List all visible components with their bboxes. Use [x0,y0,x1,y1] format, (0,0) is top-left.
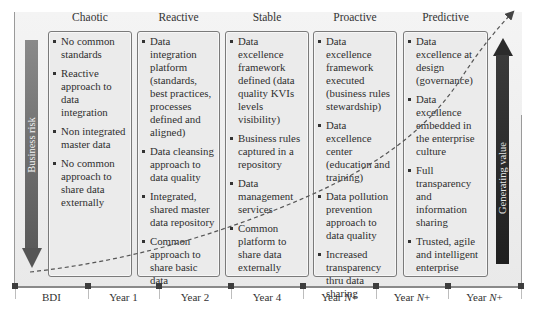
label-suffix: + [497,291,503,303]
label-text: Year [466,291,489,303]
label-text: BDI [42,291,61,303]
label-text: Year 1 [109,291,138,303]
label-text: Year [321,291,344,303]
timeline-label-year-n-2: Year N+ [376,291,448,303]
label-text: Year 4 [253,291,282,303]
maturity-model-diagram: Chaotic Reactive Stable Proactive Predic… [0,0,534,313]
label-italic: N [417,291,424,303]
timeline-label-year-4: Year 4 [231,291,303,303]
label-italic: N [344,291,351,303]
timeline-label-bdi: BDI [15,291,88,303]
growth-curve-icon [0,0,534,313]
label-text: Year [394,291,417,303]
timeline-label-year-n-1: Year N+ [303,291,376,303]
label-suffix: + [424,291,430,303]
tick-stem [521,289,522,299]
timeline-label-year-n-3: Year N+ [448,291,521,303]
timeline-label-year-1: Year 1 [88,291,159,303]
timeline-label-year-2: Year 2 [159,291,231,303]
label-text: Year 2 [181,291,210,303]
label-suffix: + [352,291,358,303]
label-italic: N [489,291,496,303]
